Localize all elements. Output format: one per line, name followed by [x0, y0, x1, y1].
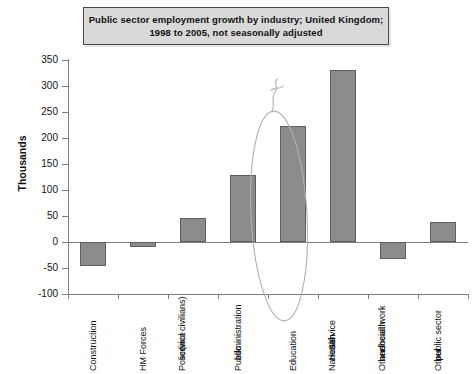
- x-axis-category-label: Education: [288, 301, 299, 371]
- bar[interactable]: [380, 242, 406, 259]
- chart-title-box: Public sector employment growth by indus…: [83, 7, 389, 45]
- y-axis-tick-label: 0: [18, 237, 58, 247]
- x-axis-category-label: Other healthandsocial work: [377, 301, 409, 371]
- x-axis-category-label: Otherpublic sector: [433, 301, 454, 371]
- category-separator-tick: [218, 294, 219, 299]
- x-axis-category-label-line: HM Forces: [138, 361, 149, 372]
- category-separator-tick: [118, 294, 119, 299]
- x-axis-category-label-line: Construction: [88, 361, 99, 372]
- chart-title-line-1: Public sector employment growth by indus…: [89, 13, 384, 26]
- x-axis-category-label-line: Other: [433, 361, 454, 372]
- y-axis-title: Thousands: [17, 109, 28, 219]
- x-axis-category-label: NationalHealthService: [327, 301, 359, 371]
- category-separator-tick: [318, 294, 319, 299]
- y-axis-tick-label: -50: [18, 263, 58, 273]
- x-axis-category-label-line: Public: [233, 361, 254, 372]
- bar[interactable]: [280, 126, 306, 242]
- x-axis-category-label: HM Forces: [138, 301, 149, 371]
- x-axis-category-label-line: (incl civilians): [177, 340, 209, 351]
- x-axis-category-label-line: Service: [327, 340, 359, 351]
- x-axis-category-label-line: Other health: [377, 361, 409, 372]
- bar[interactable]: [430, 222, 456, 242]
- x-axis-category-label-line: and: [377, 350, 409, 361]
- y-axis-tick-label: 300: [18, 81, 58, 91]
- y-axis-tick-label: 350: [18, 55, 58, 65]
- x-axis-category-label-line: Police: [177, 361, 209, 372]
- category-separator-tick: [468, 294, 469, 299]
- bar[interactable]: [330, 70, 356, 242]
- x-axis-category-label-line: public sector: [433, 350, 454, 361]
- x-axis-category-label-line: National: [327, 361, 359, 372]
- x-axis-category-label-line: service: [177, 350, 209, 361]
- plot-area: [68, 60, 468, 294]
- category-separator-tick: [68, 294, 69, 299]
- bar[interactable]: [130, 242, 156, 247]
- x-axis-category-label-line: Education: [288, 361, 299, 372]
- x-axis-category-label-line: Health: [327, 350, 359, 361]
- bar[interactable]: [80, 242, 106, 266]
- x-axis-category-label: Publicadministration: [233, 301, 254, 371]
- chart-title-line-2: 1998 to 2005, not seasonally adjusted: [149, 26, 322, 39]
- category-separator-tick: [268, 294, 269, 299]
- x-axis-category-label-line: social work: [377, 340, 409, 351]
- category-separator-tick: [168, 294, 169, 299]
- x-axis-category-label: Construction: [88, 301, 99, 371]
- y-axis-tick-label: -100: [18, 289, 58, 299]
- bar[interactable]: [180, 218, 206, 242]
- x-axis-category-label-line: administration: [233, 350, 254, 361]
- category-separator-tick: [418, 294, 419, 299]
- bar[interactable]: [230, 175, 256, 242]
- category-separator-tick: [368, 294, 369, 299]
- x-axis-category-label: Policeservice(incl civilians): [177, 301, 209, 371]
